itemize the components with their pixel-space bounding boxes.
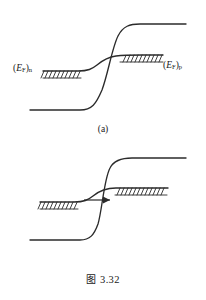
carrier-transfer-arrow — [84, 197, 110, 204]
hatching-left-b — [38, 202, 78, 209]
hatching-right-a — [120, 55, 163, 62]
figure-caption-prefix: 图 — [86, 274, 96, 285]
fermi-level-p-label-a: (EF)p (EF)p — [163, 61, 182, 71]
hatching-left-a — [41, 71, 81, 78]
conduction-band-curve-b — [30, 158, 186, 240]
panel-b-diagram — [0, 140, 206, 265]
panel-a: (EF)n (EF)n (EF)p (EF)p (a) — [0, 0, 206, 145]
figure-container: (EF)n (EF)n (EF)p (EF)p (a) — [0, 0, 206, 300]
hatching-right-b — [115, 188, 167, 195]
panel-a-caption: (a) — [0, 124, 206, 134]
panel-b: (EF)n (EF)n (EF)p (EF)p (b) — [0, 140, 206, 265]
fermi-level-n-label-a: (EF)n (EF)n — [13, 64, 32, 74]
figure-caption-number: 3.32 — [100, 274, 120, 285]
figure-caption: 图 3.32 — [0, 271, 206, 286]
